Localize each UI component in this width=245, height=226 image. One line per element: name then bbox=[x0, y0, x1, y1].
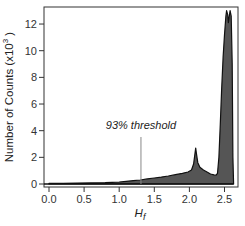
x-tick-label: 0.0 bbox=[41, 193, 56, 205]
x-tick-label: 2.5 bbox=[217, 193, 232, 205]
y-axis-title-close: ) bbox=[3, 32, 15, 39]
y-tick-label: 4 bbox=[31, 125, 37, 137]
y-tick-label: 0 bbox=[31, 178, 37, 190]
x-tick-label: 2.0 bbox=[182, 193, 197, 205]
histogram-chart: 93% threshold 0.00.51.01.52.02.5 0246810… bbox=[0, 0, 245, 226]
y-tick-label: 8 bbox=[31, 71, 37, 83]
y-axis-title: Number of Counts (x103 ) bbox=[1, 32, 15, 163]
y-axis-title-main: Number of Counts (x10 bbox=[3, 43, 15, 162]
x-tick-label: 1.0 bbox=[112, 193, 127, 205]
y-axis: 024681012 bbox=[25, 18, 44, 190]
x-axis-title: Hf bbox=[135, 207, 147, 222]
y-tick-label: 6 bbox=[31, 98, 37, 110]
x-tick-label: 0.5 bbox=[76, 193, 91, 205]
threshold-label: 93% threshold bbox=[106, 119, 177, 131]
x-tick-label: 1.5 bbox=[147, 193, 162, 205]
y-tick-label: 10 bbox=[25, 45, 37, 57]
x-axis: 0.00.51.01.52.02.5 bbox=[41, 187, 232, 205]
y-tick-label: 2 bbox=[31, 151, 37, 163]
y-tick-label: 12 bbox=[25, 18, 37, 30]
x-axis-title-subscript: f bbox=[143, 212, 147, 222]
